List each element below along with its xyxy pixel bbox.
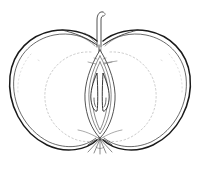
apple-cross-section-drawing: Apple longitudinal cross-section Black a…: [0, 0, 201, 171]
apple-figure: Apple longitudinal cross-section Black a…: [0, 0, 201, 171]
